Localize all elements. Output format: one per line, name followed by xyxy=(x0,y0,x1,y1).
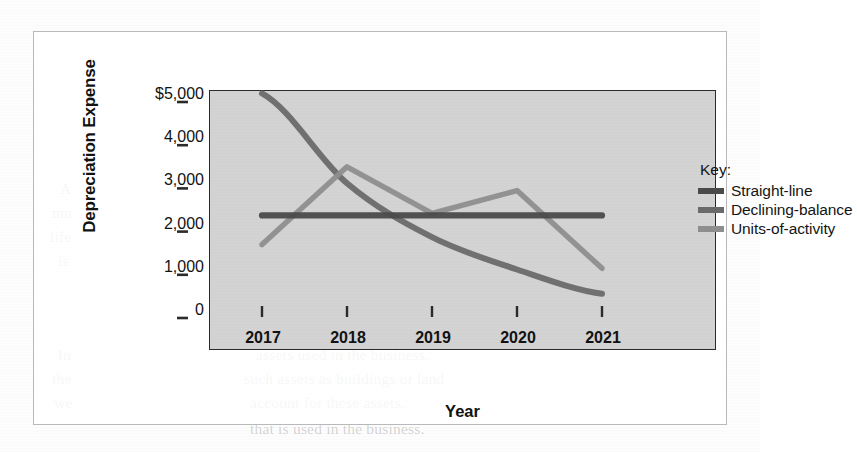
x-tick-label: 2018 xyxy=(313,329,383,347)
figure-frame: Depreciation Expense Year Key: Straight-… xyxy=(33,31,727,425)
x-tick-label: 2020 xyxy=(483,329,553,347)
x-tick-label: 2021 xyxy=(568,329,638,347)
x-tick-label: 2019 xyxy=(398,329,468,347)
x-axis-tick-labels: 20172018201920202021 xyxy=(34,32,794,452)
x-tick-label: 2017 xyxy=(228,329,298,347)
